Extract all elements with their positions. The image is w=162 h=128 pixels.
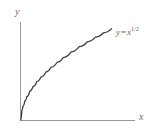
equation-exponent: 1/2 (131, 26, 139, 32)
plot-area (0, 0, 162, 128)
curve-equation-annotation: y=x1/2 (116, 26, 139, 37)
sqrt-curve (21, 29, 112, 121)
figure-container: y x y=x1/2 (0, 0, 162, 128)
x-axis-label: x (139, 112, 143, 122)
y-axis-label: y (15, 7, 19, 17)
